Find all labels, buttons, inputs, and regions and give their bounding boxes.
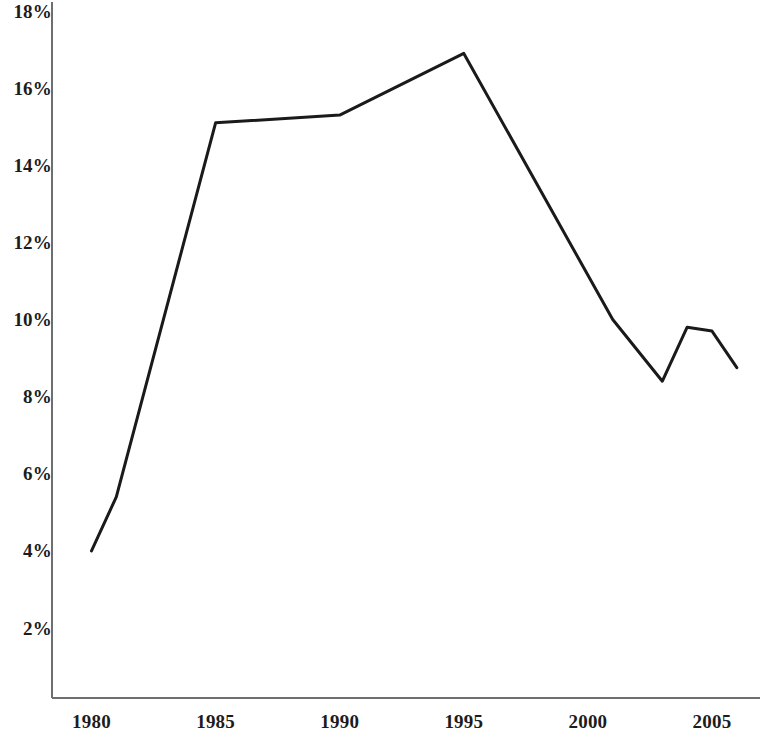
x-axis-tick-label: 2005 bbox=[667, 712, 757, 731]
x-axis-tick-label: 1990 bbox=[295, 712, 385, 731]
x-axis-tick-label: 1980 bbox=[47, 712, 137, 731]
x-axis-tick-label: 1985 bbox=[171, 712, 261, 731]
x-axis-tick-labels: 198019851990199520002005 bbox=[0, 0, 762, 756]
line-chart: 2%4%6%8%10%12%14%16%18% 1980198519901995… bbox=[0, 0, 762, 756]
x-axis-tick-label: 1995 bbox=[419, 712, 509, 731]
x-axis-tick-label: 2000 bbox=[543, 712, 633, 731]
